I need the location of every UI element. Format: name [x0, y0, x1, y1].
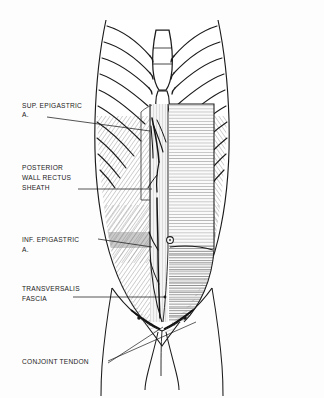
anatomical-plate: SUP. EPIGASTRIC A. POSTERIOR WALL RECTUS…	[0, 0, 324, 398]
label-sup-epigastric-line1: SUP. EPIGASTRIC	[22, 102, 82, 109]
umbilicus	[167, 237, 174, 244]
label-transversalis-line2: FASCIA	[22, 295, 47, 302]
label-posterior-line2: WALL RECTUS	[22, 174, 72, 181]
label-inf-epigastric-line1: INF. EPIGASTRIC	[22, 236, 79, 243]
label-posterior-line3: SHEATH	[22, 184, 50, 191]
label-inf-epigastric-line2: A.	[22, 246, 29, 253]
label-sup-epigastric-line2: A.	[22, 111, 29, 118]
label-posterior-line1: POSTERIOR	[22, 164, 63, 171]
label-transversalis-line1: TRANSVERSALIS	[22, 285, 80, 292]
leader-dot-transversalis	[164, 296, 167, 299]
sternum-body	[153, 30, 173, 90]
label-conjoint-tendon-text: CONJOINT TENDON	[22, 358, 89, 365]
